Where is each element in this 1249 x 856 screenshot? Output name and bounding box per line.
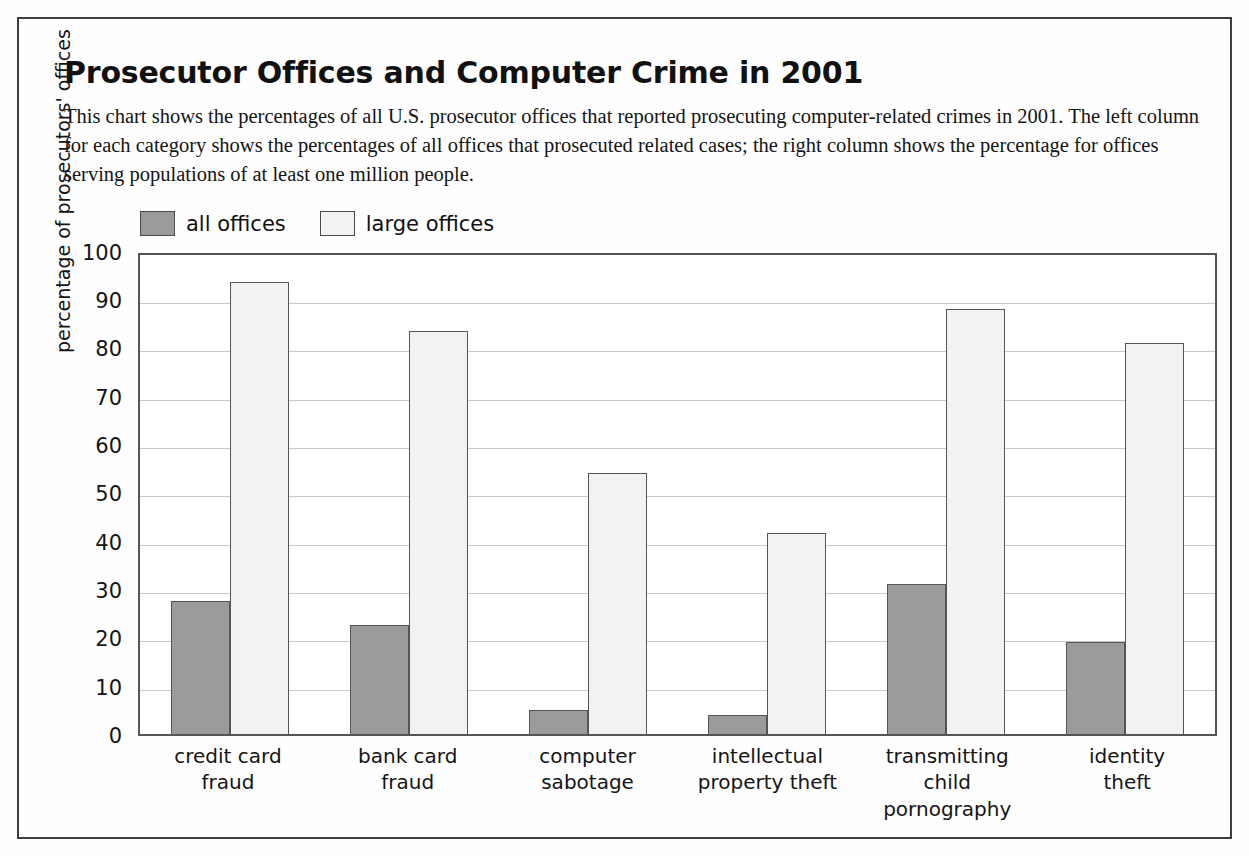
legend-item-large-offices[interactable]: large offices xyxy=(320,211,494,236)
bar-all-offices-5[interactable] xyxy=(1066,642,1125,734)
bar-large-offices-4[interactable] xyxy=(946,309,1005,734)
bar-large-offices-1[interactable] xyxy=(409,331,468,734)
legend-item-all-offices[interactable]: all offices xyxy=(140,211,286,236)
page: Prosecutor Offices and Computer Crime in… xyxy=(0,0,1249,856)
legend-label-all-offices: all offices xyxy=(186,212,286,236)
bar-all-offices-2[interactable] xyxy=(529,710,588,734)
chart-description: This chart shows the percentages of all … xyxy=(64,102,1204,189)
y-axis-tick-100: 100 xyxy=(82,241,122,265)
bar-group xyxy=(498,255,677,734)
x-axis-tick-labels: credit card fraudbank card fraudcomputer… xyxy=(138,743,1217,822)
y-axis-tick-80: 80 xyxy=(95,337,122,361)
content-container: Prosecutor Offices and Computer Crime in… xyxy=(64,57,1224,847)
bar-group xyxy=(319,255,498,734)
y-axis-tick-70: 70 xyxy=(95,386,122,410)
x-axis-label-2: computer sabotage xyxy=(498,743,678,822)
chart-legend: all offices large offices xyxy=(140,207,1224,241)
page-border: Prosecutor Offices and Computer Crime in… xyxy=(17,17,1232,839)
y-axis-tick-50: 50 xyxy=(95,482,122,506)
x-axis-label-5: identity theft xyxy=(1037,743,1217,822)
y-axis-tick-20: 20 xyxy=(95,627,122,651)
plot-area xyxy=(138,253,1217,736)
legend-label-large-offices: large offices xyxy=(366,212,494,236)
x-axis-label-3: intellectual property theft xyxy=(677,743,857,822)
y-axis-tick-30: 30 xyxy=(95,579,122,603)
bar-large-offices-2[interactable] xyxy=(588,473,647,734)
legend-swatch-all-offices xyxy=(140,211,175,236)
y-axis-tick-90: 90 xyxy=(95,289,122,313)
legend-swatch-large-offices xyxy=(320,211,355,236)
bar-group xyxy=(1036,255,1215,734)
page-title: Prosecutor Offices and Computer Crime in… xyxy=(64,57,1224,89)
bar-group xyxy=(857,255,1036,734)
x-axis-label-4: transmitting child pornography xyxy=(857,743,1037,822)
bar-all-offices-4[interactable] xyxy=(887,584,946,734)
bar-large-offices-5[interactable] xyxy=(1125,343,1184,734)
bar-all-offices-1[interactable] xyxy=(350,625,409,734)
x-axis-label-0: credit card fraud xyxy=(138,743,318,822)
y-axis-tick-40: 40 xyxy=(95,531,122,555)
bar-groups xyxy=(140,255,1215,734)
bar-chart: percentage of prosecutors' offices 10090… xyxy=(64,253,1224,813)
bar-all-offices-3[interactable] xyxy=(708,715,767,734)
bar-group xyxy=(678,255,857,734)
y-axis-tick-10: 10 xyxy=(95,676,122,700)
bar-all-offices-0[interactable] xyxy=(171,601,230,734)
bar-large-offices-0[interactable] xyxy=(230,282,289,734)
y-axis-tick-labels: 1009080706050403020100 xyxy=(64,253,130,736)
y-axis-tick-0: 0 xyxy=(109,724,122,748)
y-axis-tick-60: 60 xyxy=(95,434,122,458)
bar-large-offices-3[interactable] xyxy=(767,533,826,733)
x-axis-label-1: bank card fraud xyxy=(318,743,498,822)
bar-group xyxy=(140,255,319,734)
